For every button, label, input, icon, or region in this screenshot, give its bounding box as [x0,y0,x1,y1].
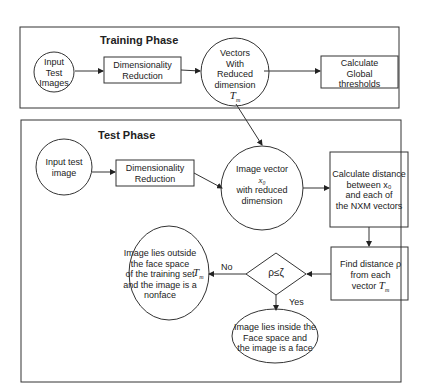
arrow-vectors-imgvec [236,104,262,145]
test-outside-label: Image lies outside the face space of the… [118,248,202,301]
test-inside-label: Image lies inside the Face space and the… [232,322,318,354]
no-label: No [221,262,233,273]
test-finddist-label: Find distance ρ from each vector Tm [333,259,408,296]
test-imgvec-label: Image vector x₀ with reduced dimension [226,164,298,206]
arrow-dimred-vectors [181,70,200,71]
training-phase-title: Training Phase [100,34,178,46]
training-vectors-label: Vectors With Reduced dimension Tm [205,48,265,106]
arrow-dimred-imgvec [194,173,222,188]
test-calcdist-label: Calculate distance between x₀ and each o… [330,169,408,211]
test-decision-label: ρ≤ζ [256,268,296,279]
test-input-label: Input test image [38,157,90,178]
training-global-label: Calculate Global thresholds [321,58,398,90]
outside-symbol: Tm [193,266,203,280]
training-input-label: Input Test Images [34,57,74,89]
training-dimred-label: Dimensionality Reduction [104,60,181,81]
test-dimred-label: Dimensionality Reduction [116,163,194,184]
test-phase-title: Test Phase [98,129,155,141]
yes-label: Yes [289,297,304,308]
vectors-symbol: Tm [205,90,265,106]
